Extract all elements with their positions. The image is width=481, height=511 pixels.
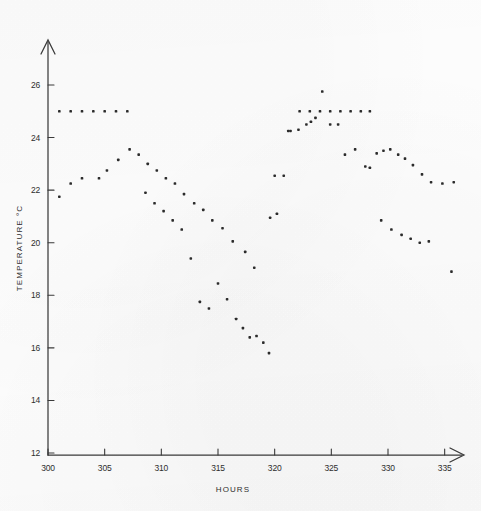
y-tick-label: 26 <box>31 80 41 90</box>
data-point <box>450 270 453 273</box>
data-point <box>382 149 385 152</box>
data-point <box>428 240 431 243</box>
y-tick-label: 18 <box>31 290 41 300</box>
data-point <box>337 123 340 126</box>
data-point <box>98 177 101 180</box>
x-axis-title: HOURS <box>216 485 250 494</box>
data-point <box>103 110 106 113</box>
data-point <box>309 110 312 113</box>
data-point <box>273 174 276 177</box>
y-tick-label: 22 <box>31 185 41 195</box>
data-point <box>418 241 421 244</box>
data-point <box>397 153 400 156</box>
data-point <box>153 202 156 205</box>
series-decline-right <box>344 148 455 185</box>
data-point <box>287 130 290 133</box>
series-upper-plateau-right <box>298 110 371 113</box>
y-tick-label: 24 <box>31 133 41 143</box>
data-point <box>144 191 147 194</box>
data-point <box>452 181 455 184</box>
x-tick-label: 335 <box>438 463 452 473</box>
series-upper-curve <box>58 90 331 269</box>
y-tick-label: 20 <box>31 238 41 248</box>
x-tick-label: 310 <box>155 463 169 473</box>
data-point <box>369 110 372 113</box>
data-point <box>190 257 193 260</box>
data-point <box>262 341 265 344</box>
series-upper-plateau-left <box>58 110 129 113</box>
data-point <box>268 352 271 355</box>
data-point <box>226 298 229 301</box>
data-point <box>441 182 444 185</box>
data-point <box>421 173 424 176</box>
series-tail-lower <box>380 219 453 273</box>
data-point <box>69 110 72 113</box>
data-point <box>128 148 131 151</box>
data-point <box>117 159 120 162</box>
data-point <box>115 110 118 113</box>
data-point <box>298 110 301 113</box>
data-point <box>146 163 149 166</box>
data-point <box>156 169 159 172</box>
data-point <box>193 202 196 205</box>
data-point <box>360 110 363 113</box>
scatter-plot: 1214161820222426 30030531031532032533033… <box>0 0 481 511</box>
data-point <box>339 110 342 113</box>
data-point <box>242 327 245 330</box>
data-point <box>58 195 61 198</box>
data-point <box>404 157 407 160</box>
data-point <box>369 167 372 170</box>
data-point <box>364 165 367 168</box>
data-point <box>321 90 324 93</box>
y-tick-label: 14 <box>31 395 41 405</box>
data-point <box>289 130 292 133</box>
data-point <box>69 182 72 185</box>
data-point <box>162 210 165 213</box>
data-point <box>314 117 317 120</box>
data-point <box>180 228 183 231</box>
data-point <box>430 181 433 184</box>
data-point <box>400 234 403 237</box>
chart-page: 1214161820222426 30030531031532032533033… <box>0 0 481 511</box>
data-point <box>375 152 378 155</box>
data-point <box>248 336 251 339</box>
y-tick-label: 12 <box>31 448 41 458</box>
data-point <box>137 153 140 156</box>
data-point <box>329 123 332 126</box>
x-tick-label: 315 <box>211 463 225 473</box>
series-stragglers <box>273 123 339 177</box>
data-point <box>269 216 272 219</box>
data-point <box>276 213 279 216</box>
data-point <box>199 301 202 304</box>
y-axis-ticks: 1214161820222426 <box>31 80 54 458</box>
x-tick-label: 330 <box>381 463 395 473</box>
y-tick-label: 16 <box>31 343 41 353</box>
series-lower-curve <box>144 191 270 354</box>
data-point <box>92 110 95 113</box>
data-point <box>244 251 247 254</box>
data-point <box>310 121 313 124</box>
data-point <box>354 148 357 151</box>
data-point <box>81 110 84 113</box>
data-point <box>253 266 256 269</box>
data-point <box>255 335 258 338</box>
data-point <box>282 174 285 177</box>
data-point <box>165 177 168 180</box>
x-tick-label: 300 <box>41 463 55 473</box>
data-point <box>412 164 415 167</box>
data-point <box>329 110 332 113</box>
data-point <box>208 307 211 310</box>
x-tick-label: 325 <box>325 463 339 473</box>
data-points-layer <box>58 90 455 354</box>
x-axis-ticks: 300305310315320325330335 <box>41 449 452 473</box>
data-point <box>380 219 383 222</box>
x-tick-label: 305 <box>98 463 112 473</box>
data-point <box>81 177 84 180</box>
data-point <box>297 128 300 131</box>
data-point <box>126 110 129 113</box>
data-point <box>221 227 224 230</box>
data-point <box>235 318 238 321</box>
data-point <box>58 110 61 113</box>
data-point <box>202 209 205 212</box>
y-axis-title: TEMPERATURE °C <box>15 205 24 291</box>
